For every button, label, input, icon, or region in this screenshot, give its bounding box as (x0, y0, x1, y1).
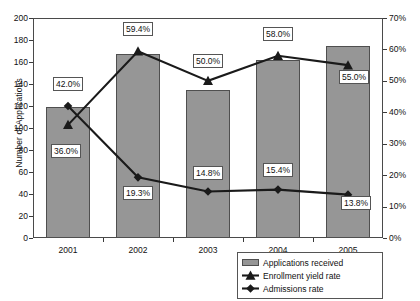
line-path (68, 106, 348, 195)
chart-container: Number of Applications 20018016014012010… (0, 0, 420, 301)
data-point-marker-diamond (274, 185, 283, 194)
x-axis-label: 2001 (33, 246, 103, 255)
legend-swatch-triangle (242, 271, 259, 280)
legend-label: Admissions rate (263, 284, 323, 294)
legend-item: Admissions rate (242, 282, 377, 295)
legend-label: Enrollment yield rate (263, 271, 340, 281)
legend-label: Applications received (263, 258, 343, 268)
legend-swatch-diamond (242, 284, 259, 293)
legend-item: Applications received (242, 256, 377, 269)
chart-legend: Applications receivedEnrollment yield ra… (237, 252, 383, 299)
data-label: 55.0% (339, 70, 369, 84)
data-label: 59.4% (123, 22, 153, 36)
data-label: 50.0% (193, 54, 223, 68)
data-label: 36.0% (51, 144, 81, 158)
x-tick-mark (173, 238, 174, 242)
data-label: 19.3% (123, 186, 153, 200)
x-axis-label: 2003 (173, 246, 243, 255)
data-label: 15.4% (263, 163, 293, 177)
data-point-marker-diamond (204, 187, 213, 196)
data-label: 13.8% (341, 196, 371, 210)
x-tick-mark (313, 238, 314, 242)
data-label: 58.0% (263, 27, 293, 41)
data-label: 42.0% (53, 77, 83, 91)
x-tick-mark (243, 238, 244, 242)
legend-swatch-bar (242, 259, 259, 266)
data-point-marker-triangle (133, 46, 143, 55)
x-axis-label: 2002 (103, 246, 173, 255)
x-tick-mark (103, 238, 104, 242)
legend-item: Enrollment yield rate (242, 269, 377, 282)
data-label: 14.8% (193, 166, 223, 180)
